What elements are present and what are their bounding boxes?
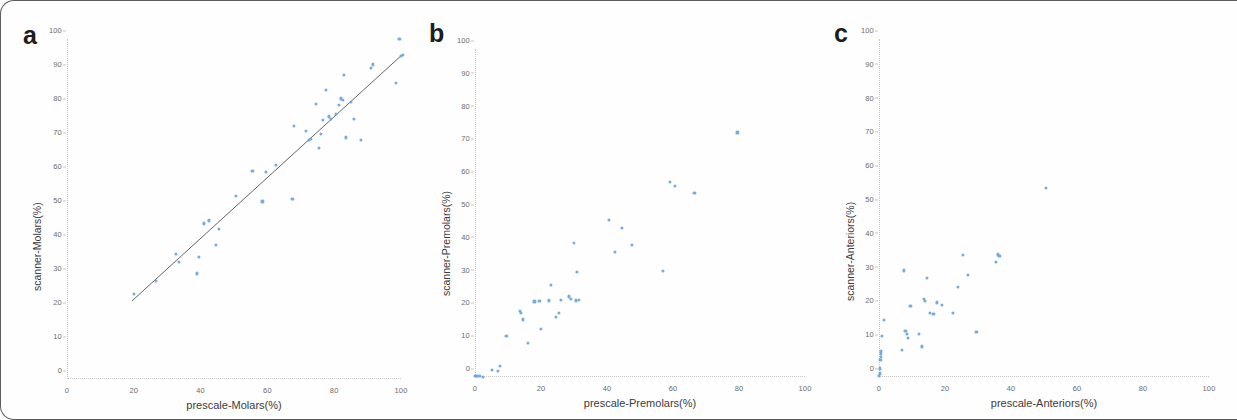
data-point (967, 273, 970, 276)
x-tick-c-20: 20 (941, 384, 950, 393)
x-axis-label-a: prescale-Molars(%) (186, 399, 281, 411)
x-tick-c-100: 100 (1202, 384, 1215, 393)
data-point (548, 299, 551, 302)
data-point (940, 303, 943, 306)
data-point (539, 328, 542, 331)
y-tick-b-50: 50 (461, 200, 470, 209)
data-point (559, 298, 562, 301)
data-point (520, 311, 523, 314)
data-point (736, 131, 739, 134)
data-point (905, 332, 908, 335)
x-axis-c (879, 376, 1209, 377)
y-tick-c-20: 20 (865, 296, 874, 305)
y-tick-a-90: 90 (53, 60, 62, 69)
plot-area-b: 0102030405060708090100020406080100presca… (475, 49, 805, 377)
x-axis-label-b: prescale-Premolars(%) (584, 397, 696, 409)
data-point (882, 319, 885, 322)
data-point (576, 270, 579, 273)
data-point (998, 254, 1001, 257)
x-axis-label-c: prescale-Anteriors(%) (991, 397, 1097, 409)
x-tick-b-100: 100 (798, 384, 811, 393)
data-point (906, 337, 909, 340)
panel-a: a 0102030405060708090100020406080100pres… (1, 1, 418, 420)
data-point (879, 359, 882, 362)
data-point (1044, 187, 1047, 190)
y-tick-a-50: 50 (53, 196, 62, 205)
x-tick-b-40: 40 (603, 384, 612, 393)
x-tick-b-80: 80 (735, 384, 744, 393)
data-point (901, 348, 904, 351)
data-point (879, 355, 882, 358)
data-point (662, 270, 665, 273)
x-tick-a-0: 0 (65, 386, 69, 395)
data-point (924, 299, 927, 302)
x-tick-c-0: 0 (877, 384, 881, 393)
figure-container: a 0102030405060708090100020406080100pres… (0, 0, 1237, 420)
data-point (549, 284, 552, 287)
y-axis-label-a: scanner-Molars(%) (31, 202, 43, 291)
data-point (490, 369, 493, 372)
data-point (569, 297, 572, 300)
x-tick-a-40: 40 (196, 386, 205, 395)
data-point (693, 192, 696, 195)
data-point (558, 311, 561, 314)
x-tick-c-40: 40 (1007, 384, 1016, 393)
data-point (533, 300, 536, 303)
y-tick-c-40: 40 (865, 228, 874, 237)
plot-area-c: 0102030405060708090100020406080100presca… (879, 39, 1209, 377)
y-tick-c-90: 90 (865, 59, 874, 68)
data-point (505, 334, 508, 337)
data-point (995, 261, 998, 264)
data-point (917, 332, 920, 335)
y-tick-c-50: 50 (865, 195, 874, 204)
data-point (497, 370, 500, 373)
data-point (878, 372, 881, 375)
data-point (554, 316, 557, 319)
data-point (880, 350, 883, 353)
data-point (975, 331, 978, 334)
data-point (401, 54, 404, 57)
y-tick-c-10: 10 (865, 330, 874, 339)
y-tick-c-0: 0 (870, 364, 874, 373)
y-tick-a-10: 10 (53, 332, 62, 341)
trend-line-a (67, 39, 401, 379)
x-tick-b-60: 60 (669, 384, 678, 393)
y-tick-a-80: 80 (53, 94, 62, 103)
data-point (630, 243, 633, 246)
y-tick-b-100: 100 (457, 36, 470, 45)
y-tick-b-0: 0 (466, 364, 470, 373)
data-point (925, 276, 928, 279)
y-tick-a-70: 70 (53, 128, 62, 137)
y-tick-a-60: 60 (53, 162, 62, 171)
x-axis-b (475, 376, 805, 377)
data-point (538, 299, 541, 302)
panel-b: b 0102030405060708090100020406080100pres… (416, 1, 828, 420)
data-point (957, 286, 960, 289)
y-tick-b-30: 30 (461, 265, 470, 274)
x-tick-a-60: 60 (263, 386, 272, 395)
y-tick-b-60: 60 (461, 167, 470, 176)
data-point (577, 298, 580, 301)
plot-area-a: 0102030405060708090100020406080100presca… (67, 39, 401, 379)
data-point (673, 184, 676, 187)
x-tick-b-0: 0 (473, 384, 477, 393)
y-tick-b-70: 70 (461, 134, 470, 143)
y-axis-c (879, 39, 880, 377)
x-tick-a-80: 80 (330, 386, 339, 395)
y-tick-c-60: 60 (865, 161, 874, 170)
data-point (498, 365, 501, 368)
x-tick-c-60: 60 (1073, 384, 1082, 393)
data-point (572, 242, 575, 245)
y-axis-label-b: scanner-Premolars(%) (440, 191, 452, 296)
y-tick-b-40: 40 (461, 232, 470, 241)
panel-c: c 0102030405060708090100020406080100pres… (821, 1, 1237, 420)
x-tick-b-20: 20 (537, 384, 546, 393)
data-point (932, 313, 935, 316)
data-point (902, 269, 905, 272)
data-point (878, 367, 881, 370)
y-tick-b-90: 90 (461, 68, 470, 77)
y-tick-a-30: 30 (53, 264, 62, 273)
data-point (935, 301, 938, 304)
data-point (668, 180, 671, 183)
data-point (482, 375, 485, 378)
